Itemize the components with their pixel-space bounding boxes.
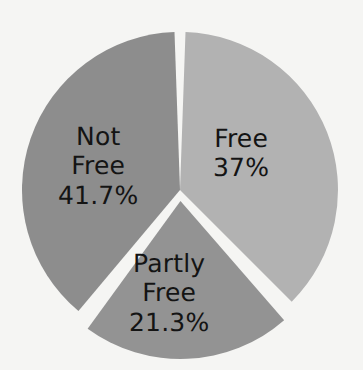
- pie-label-not-free-name-line2: Free: [58, 151, 138, 180]
- pie-label-partly-free-value: 21.3%: [129, 308, 209, 337]
- pie-label-not-free-value: 41.7%: [58, 181, 138, 210]
- pie-label-free: Free 37%: [213, 124, 269, 183]
- pie-label-free-name: Free: [213, 124, 269, 153]
- pie-label-not-free-name-line1: Not: [58, 122, 138, 151]
- pie-label-free-value: 37%: [213, 153, 269, 182]
- pie-label-partly-free-name-line2: Free: [129, 278, 209, 307]
- pie-label-partly-free-name-line1: Partly: [129, 249, 209, 278]
- pie-chart: Free 37% Not Free 41.7% Partly Free 21.3…: [0, 0, 363, 370]
- pie-label-partly-free: Partly Free 21.3%: [129, 249, 209, 337]
- pie-label-not-free: Not Free 41.7%: [58, 122, 138, 210]
